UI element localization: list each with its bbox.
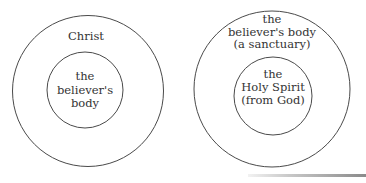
page-edge-shadow — [248, 174, 366, 177]
label-christ: Christ — [68, 29, 104, 43]
concentric-diagrams: Christ the believer's body the believer'… — [0, 0, 366, 183]
label-the: the — [76, 69, 95, 83]
label-a-sanctuary: (a sanctuary) — [234, 37, 311, 51]
label-from-god: (from God) — [241, 93, 305, 107]
diagram-body-spirit: the believer's body (a sanctuary) the Ho… — [194, 11, 350, 167]
label-body: body — [71, 96, 100, 110]
label-believers: believer's — [57, 83, 113, 97]
label-holy-spirit: Holy Spirit — [241, 80, 305, 94]
label-the: the — [264, 67, 283, 81]
label-the: the — [263, 12, 282, 26]
diagram-christ-body: Christ the believer's body — [13, 16, 164, 167]
